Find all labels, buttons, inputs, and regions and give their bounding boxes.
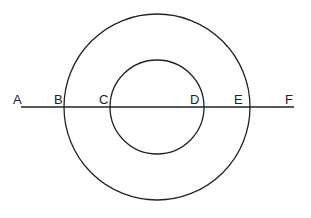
label-e: E (234, 92, 243, 107)
label-f: F (285, 92, 293, 107)
label-d: D (190, 92, 199, 107)
concentric-circles-diagram: A B C D E F (0, 0, 311, 218)
label-a: A (13, 92, 22, 107)
label-b: B (54, 92, 63, 107)
label-c: C (99, 92, 108, 107)
